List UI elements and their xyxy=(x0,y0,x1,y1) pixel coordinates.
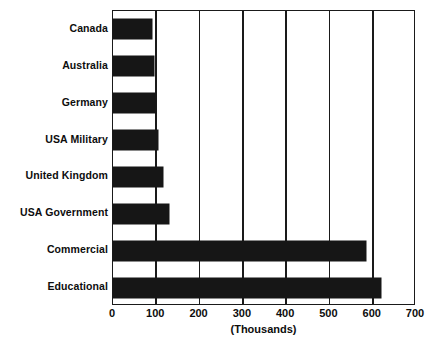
x-axis-title: (Thousands) xyxy=(112,323,415,335)
category-axis: CanadaAustraliaGermanyUSA MilitaryUnited… xyxy=(0,10,108,305)
plot-area xyxy=(112,10,415,305)
gridline xyxy=(372,11,374,304)
category-label: Germany xyxy=(0,97,108,108)
bar xyxy=(113,204,169,224)
x-tick-label: 200 xyxy=(189,307,207,319)
category-label: Commercial xyxy=(0,244,108,255)
bar xyxy=(113,130,158,150)
x-tick-label: 0 xyxy=(109,307,115,319)
bar xyxy=(113,278,381,298)
category-label: USA Government xyxy=(0,207,108,218)
x-tick-label: 100 xyxy=(146,307,164,319)
value-axis: 0100200300400500600700 xyxy=(112,307,415,323)
category-label: Educational xyxy=(0,281,108,292)
bar xyxy=(113,167,163,187)
x-tick-label: 700 xyxy=(406,307,424,319)
x-tick-label: 400 xyxy=(276,307,294,319)
bar xyxy=(113,56,154,76)
horizontal-bar-chart: CanadaAustraliaGermanyUSA MilitaryUnited… xyxy=(0,0,434,344)
x-tick-label: 500 xyxy=(319,307,337,319)
category-label: USA Military xyxy=(0,134,108,145)
cropped-caption-remnant xyxy=(4,338,244,344)
bar xyxy=(113,93,156,113)
category-label: United Kingdom xyxy=(0,170,108,181)
x-tick-label: 600 xyxy=(363,307,381,319)
bar xyxy=(113,19,152,39)
category-label: Australia xyxy=(0,60,108,71)
category-label: Canada xyxy=(0,23,108,34)
x-tick-label: 300 xyxy=(233,307,251,319)
bar xyxy=(113,241,366,261)
